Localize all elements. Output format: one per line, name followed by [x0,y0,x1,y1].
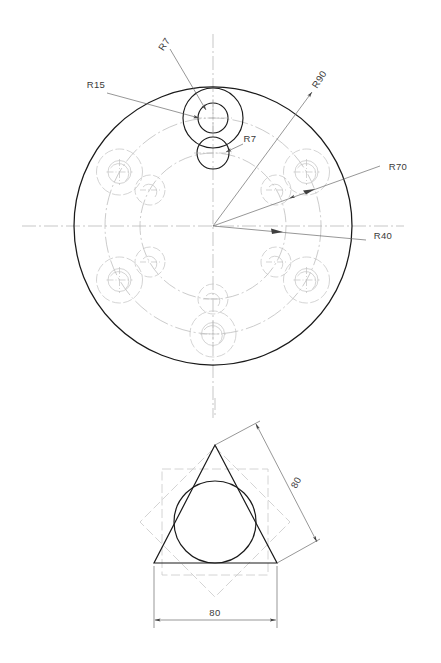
radius-leaders [107,49,380,240]
large-hole [284,149,330,195]
leader-r40 [213,226,366,240]
star-square-b [140,447,290,597]
leader-r70 [213,166,380,226]
label-r15: R15 [87,79,106,90]
label-r70: R70 [389,161,408,172]
small-hole [135,175,165,205]
top-view-flange: R15 R7 R7 R90 R70 R40 [22,34,407,418]
star-square-a [162,469,268,575]
drawing-sheet: R15 R7 R7 R90 R70 R40 [0,0,441,663]
cad-canvas: R15 R7 R7 R90 R70 R40 [0,0,441,663]
small-hole [135,247,165,277]
label-dim-80-angled: 80 [288,475,303,490]
label-r40: R40 [374,230,393,241]
label-r7-inner: R7 [244,133,257,144]
label-r7-top: R7 [156,36,172,53]
inscribed-circle [174,481,256,563]
star-construction [140,447,290,597]
triangle-outline [154,445,277,563]
arrowhead-r40 [271,229,283,235]
large-hole [97,257,143,303]
dim-line-slant [256,424,317,542]
large-hole [284,257,330,303]
small-hole [261,247,291,277]
ext-line-slant-base [277,539,320,563]
label-dim-80-horizontal: 80 [209,607,220,618]
large-holes-pattern [97,149,330,357]
ext-line-slant-apex [215,421,260,445]
small-hole-top [194,137,232,169]
large-hole [97,149,143,195]
dimension-slant-80 [215,421,320,563]
bottom-view-triangle: 80 80 [140,398,320,628]
label-r90: R90 [309,68,328,90]
radius-leader-arrowheads [271,189,315,234]
small-hole [261,175,291,205]
